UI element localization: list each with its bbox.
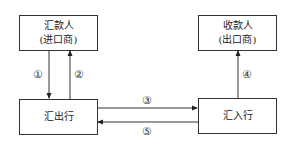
node-paying-bank: 汇入行 [198,98,277,134]
edge-label-1: ① [33,69,43,80]
edge-label-5: ⑤ [142,126,152,137]
node-paying-bank-title: 汇入行 [223,109,253,123]
edge-label-4: ④ [242,69,252,80]
edge-label-3: ③ [142,95,152,106]
node-payee-title: 收款人 [223,19,253,33]
node-remitter-subtitle: (进口商) [40,33,78,47]
node-payee: 收款人 (出口商) [198,15,277,51]
node-remitting-bank-title: 汇出行 [44,110,74,124]
node-remitting-bank: 汇出行 [19,99,98,135]
node-payee-subtitle: (出口商) [219,33,257,47]
edge-label-2: ② [74,69,84,80]
node-remitter: 汇款人 (进口商) [19,15,98,51]
node-remitter-title: 汇款人 [44,19,74,33]
